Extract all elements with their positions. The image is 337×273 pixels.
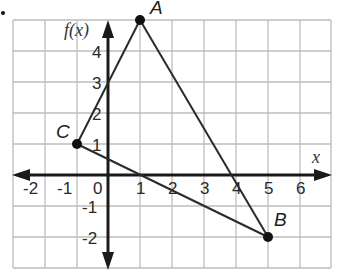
coordinate-plane: x f(x) -2 -1 0 1 2 3 4 5 6 4 3 2 1 -1 -2… (0, 0, 337, 273)
point-A (135, 15, 145, 25)
y-axis-arrow-up-icon (102, 20, 114, 38)
x-axis-label: x (311, 147, 320, 167)
x-tick: 3 (200, 179, 209, 198)
x-tick-labels: -2 -1 0 1 2 3 4 5 6 (23, 179, 305, 198)
y-axis-arrow-down-icon (102, 252, 114, 270)
x-tick: 0 (93, 179, 102, 198)
y-axis-label: f(x) (64, 20, 89, 41)
x-tick: 1 (136, 179, 145, 198)
point-A-label: A (149, 0, 163, 18)
y-tick: -2 (82, 229, 97, 248)
y-tick: 2 (92, 105, 101, 124)
y-tick-labels: 4 3 2 1 -1 -2 (82, 43, 101, 248)
x-tick: -2 (23, 179, 38, 198)
point-B (263, 232, 273, 242)
y-tick: 3 (92, 74, 101, 93)
x-tick: -1 (57, 179, 72, 198)
point-B-label: B (274, 209, 287, 230)
x-tick: 5 (264, 179, 273, 198)
point-C-label: C (56, 121, 70, 142)
x-axis-arrow-right-icon (314, 169, 332, 181)
y-tick: -1 (82, 198, 97, 217)
x-tick: 6 (296, 179, 305, 198)
y-tick: 4 (92, 43, 101, 62)
bullet-marker (1, 11, 5, 15)
grid (13, 20, 331, 268)
y-axis (102, 20, 114, 270)
point-C (72, 139, 82, 149)
